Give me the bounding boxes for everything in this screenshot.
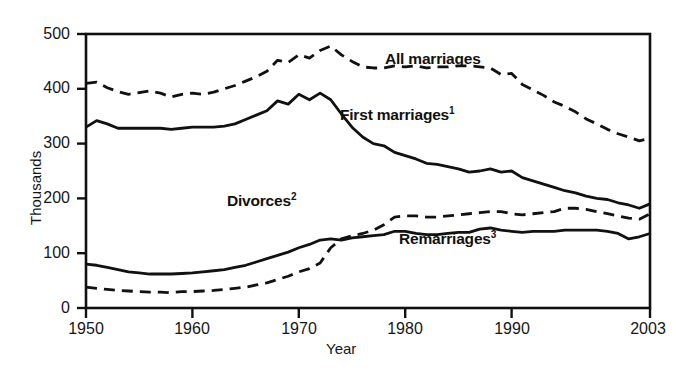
x-tick-1990: 1990 [482,320,542,338]
series-line-all-marriages [86,46,650,141]
series-label-remarriages-text: Remarriages [399,230,491,247]
series-layer [86,46,650,293]
series-line-remarriages [86,228,650,274]
y-tick-100: 100 [36,244,70,262]
series-line-divorces [86,208,650,292]
x-tick-1970: 1970 [269,320,329,338]
x-axis-title: Year [326,340,356,357]
series-label-all-marriages: All marriages [385,50,481,68]
series-label-remarriages: Remarriages3 [399,230,496,248]
x-tick-2003: 2003 [618,320,676,338]
plot-frame [86,34,650,308]
series-label-divorces-footnote: 2 [291,191,296,202]
series-label-divorces: Divorces2 [227,192,296,210]
x-tick-1980: 1980 [375,320,435,338]
series-label-first-marriages-text: First marriages [340,106,449,123]
series-label-all-marriages-text: All marriages [385,50,481,67]
y-tick-400: 400 [36,79,70,97]
chart-figure: 0 100 200 300 400 500 1950 1960 1970 198… [0,0,676,367]
series-label-first-marriages: First marriages1 [340,106,454,124]
x-tick-1950: 1950 [56,320,116,338]
y-tick-0: 0 [36,299,70,317]
series-label-first-marriages-footnote: 1 [449,105,454,116]
x-axis-ticks [86,308,650,318]
y-axis-ticks [77,34,86,308]
series-label-divorces-text: Divorces [227,192,291,209]
y-tick-500: 500 [36,25,70,43]
x-tick-1960: 1960 [162,320,222,338]
series-label-remarriages-footnote: 3 [491,229,496,240]
y-tick-300: 300 [36,134,70,152]
line-chart-canvas [0,0,676,367]
y-axis-title: Thousands [27,151,44,225]
